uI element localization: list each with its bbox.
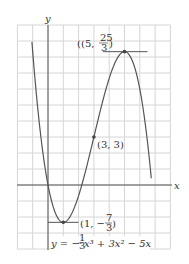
- x-axis-label: x: [174, 180, 180, 191]
- max-label-den: 3: [101, 42, 107, 53]
- label-local-max: ( (5, 25 3 ): [77, 32, 113, 53]
- point-inflection: [92, 135, 96, 139]
- eq-lhs: y = −: [50, 238, 80, 249]
- eq-rest: x³ + 3x² − 5x: [84, 238, 151, 249]
- svg-text:): ): [112, 218, 116, 229]
- label-local-min: (1, − 7 3 ): [80, 212, 116, 233]
- max-label-prefix: (5,: [81, 38, 94, 49]
- graph-figure: x y ( (5, 25 3 ) (3, 3) (1, − 7 3 ) y = …: [0, 0, 189, 264]
- min-label-prefix: (1, −: [80, 218, 105, 229]
- equation-label: y = − 1 3 x³ + 3x² − 5x: [50, 232, 151, 251]
- y-axis-label: y: [44, 13, 51, 24]
- svg-text:): ): [109, 38, 113, 49]
- label-inflection: (3, 3): [97, 139, 124, 150]
- cubic-curve: [32, 42, 151, 222]
- point-local-max: [123, 50, 127, 54]
- point-local-min: [62, 221, 66, 225]
